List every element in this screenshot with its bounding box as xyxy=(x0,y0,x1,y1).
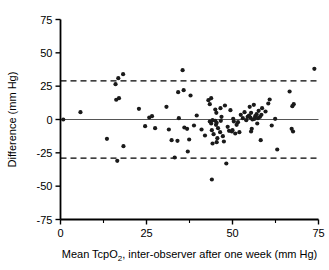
y-tick-label-1: 50 xyxy=(40,47,52,59)
data-point xyxy=(78,110,82,114)
y-tick-label-2: 25 xyxy=(40,80,52,92)
data-point xyxy=(192,123,196,127)
data-point xyxy=(211,132,215,136)
data-point xyxy=(218,106,222,110)
data-point xyxy=(143,124,147,128)
data-point xyxy=(137,107,141,111)
y-tick-label-6: -75 xyxy=(37,214,53,226)
data-point xyxy=(150,114,154,118)
data-point xyxy=(249,111,253,115)
data-point xyxy=(115,159,119,163)
data-point xyxy=(219,119,223,123)
data-point xyxy=(259,113,263,117)
data-point xyxy=(175,139,179,143)
data-point xyxy=(121,72,125,76)
data-point xyxy=(117,96,121,100)
data-point xyxy=(185,127,189,131)
data-point xyxy=(221,134,225,138)
data-point xyxy=(186,149,190,153)
data-point xyxy=(188,93,192,97)
data-point xyxy=(173,155,177,159)
data-point xyxy=(257,109,261,113)
data-point xyxy=(312,67,316,71)
y-tick-label-3: 0 xyxy=(46,114,52,126)
data-point xyxy=(273,117,277,121)
data-point xyxy=(237,130,241,134)
y-axis-title: Difference (mm Hg) xyxy=(6,72,18,168)
data-point xyxy=(263,109,267,113)
x-tick-label-3: 75 xyxy=(312,227,324,239)
chart-canvas: 7550250-25-50-750255075Difference (mm Hg… xyxy=(0,0,329,270)
data-point xyxy=(252,103,256,107)
data-point xyxy=(199,127,203,131)
data-point xyxy=(181,68,185,72)
data-point xyxy=(268,97,272,101)
data-point xyxy=(209,96,213,100)
data-point xyxy=(223,103,227,107)
data-point xyxy=(182,88,186,92)
x-tick-label-1: 25 xyxy=(140,227,152,239)
data-point xyxy=(153,126,157,130)
data-point xyxy=(187,137,191,141)
data-point xyxy=(170,138,174,142)
x-tick-label-0: 0 xyxy=(57,227,63,239)
data-point xyxy=(226,125,230,129)
data-point xyxy=(260,106,264,110)
data-point xyxy=(195,113,199,117)
data-point xyxy=(203,133,207,137)
data-point xyxy=(266,101,270,105)
data-point xyxy=(216,126,220,130)
data-point xyxy=(236,120,240,124)
data-point xyxy=(116,76,120,80)
data-point xyxy=(215,140,219,144)
data-point xyxy=(214,111,218,115)
data-point xyxy=(210,141,214,145)
data-point xyxy=(218,130,222,134)
data-point xyxy=(215,136,219,140)
data-point xyxy=(210,128,214,132)
x-tick-label-2: 50 xyxy=(226,227,238,239)
x-axis-title: Mean TcpO2, inter-observer after one wee… xyxy=(62,248,318,263)
data-point xyxy=(232,119,236,123)
data-point xyxy=(228,108,232,112)
data-point xyxy=(288,89,292,93)
data-point xyxy=(270,123,274,127)
y-tick-label-5: -50 xyxy=(37,180,53,192)
data-point xyxy=(121,144,125,148)
scatter-plot-figure: 7550250-25-50-750255075Difference (mm Hg… xyxy=(0,0,329,270)
data-point xyxy=(219,115,223,119)
data-point xyxy=(230,128,234,132)
data-point xyxy=(259,138,263,142)
data-point xyxy=(177,116,181,120)
data-point xyxy=(242,110,246,114)
data-point xyxy=(255,121,259,125)
data-point xyxy=(249,129,253,133)
data-point xyxy=(176,90,180,94)
data-point xyxy=(105,137,109,141)
data-point xyxy=(233,131,237,135)
data-point xyxy=(222,139,226,143)
data-point xyxy=(208,102,212,106)
data-point xyxy=(292,102,296,106)
data-point xyxy=(224,161,228,165)
data-point xyxy=(210,177,214,181)
data-point xyxy=(164,105,168,109)
data-point xyxy=(113,82,117,86)
data-point xyxy=(291,129,295,133)
data-point-group xyxy=(61,67,316,182)
data-point xyxy=(61,117,65,121)
data-point xyxy=(167,127,171,131)
data-point xyxy=(248,105,252,109)
y-tick-label-4: -25 xyxy=(37,147,53,159)
data-point xyxy=(275,147,279,151)
y-tick-label-0: 75 xyxy=(40,14,52,26)
